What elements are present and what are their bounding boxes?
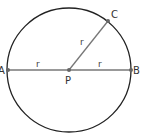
- label-r-right: r: [98, 59, 102, 69]
- label-r-left: r: [36, 59, 40, 69]
- label-A: A: [0, 65, 5, 76]
- label-P: P: [65, 75, 71, 86]
- label-r-diag: r: [80, 37, 84, 47]
- label-B: B: [133, 65, 140, 76]
- radius-PC: [69, 21, 108, 70]
- point-A: [6, 68, 10, 72]
- label-C: C: [111, 9, 118, 20]
- point-C: [106, 19, 110, 23]
- point-P: [67, 68, 71, 72]
- circle-diagram: A B C P r r r: [0, 0, 148, 140]
